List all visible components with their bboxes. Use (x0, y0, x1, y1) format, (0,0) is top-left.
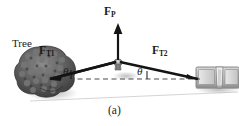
car-object (196, 67, 239, 94)
force-ft2-subscript: T2 (159, 49, 167, 58)
physics-force-diagram: Tree FT1 FP FT2 θ θ (a) (0, 0, 239, 126)
force-fp-subscript: P (111, 10, 115, 19)
figure-caption: (a) (108, 105, 121, 117)
force-ft1-label: FT1 (39, 45, 54, 57)
force-ft2-symbol: F (152, 44, 159, 56)
angle-theta-right-label: θ (137, 66, 142, 77)
vector-fp (114, 23, 123, 60)
force-ft1-symbol: F (39, 44, 46, 56)
force-fp-symbol: F (104, 5, 111, 17)
force-ft1-subscript: T1 (46, 49, 54, 58)
tree-label: Tree (12, 38, 32, 49)
force-fp-label: FP (104, 6, 115, 18)
angle-theta-left-label: θ (63, 66, 68, 77)
force-ft2-label: FT2 (152, 45, 167, 57)
